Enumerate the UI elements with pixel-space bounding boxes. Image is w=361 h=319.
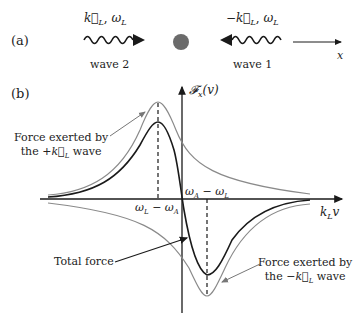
y-axis-label: 𝓕x(v) [189,84,219,99]
panel-b-label: (b) [11,87,29,100]
wave-1-caption: wave 1 [233,59,272,70]
wave-1-squiggle [220,34,281,46]
plus-wave-pointer [110,112,145,136]
x-axis-label-a: x [337,50,343,61]
wave-2-vector-label: k⃗L, ωL [84,12,127,27]
atom-dot [173,34,189,50]
wave-2-squiggle [84,34,145,46]
plus-wave-annotation: Force exerted by the +k⃗L wave [14,132,108,160]
wave-2-caption: wave 2 [90,59,129,70]
tick-right-label: ωA − ωL [185,186,229,200]
x-axis-label-b: kLv [320,206,339,221]
minus-wave-annotation: Force exerted by the −k⃗L wave [258,257,352,285]
wave-1-vector-label: −k⃗L, ωL [226,12,279,27]
tick-left-label: ωL − ωA [135,202,179,216]
minus-wave-pointer [222,264,260,282]
total-force-annotation: Total force [54,256,114,267]
panel-a-label: (a) [11,34,29,47]
